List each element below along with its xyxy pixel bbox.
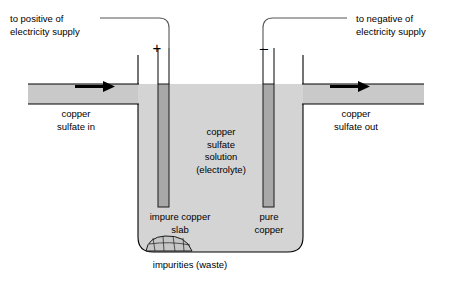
positive-terminal-sign: + (145, 40, 169, 55)
positive-supply-label: to positive of electricity supply (10, 13, 106, 38)
negative-terminal-sign: – (252, 40, 276, 55)
negative-supply-label: to negative of electricity supply (356, 13, 452, 38)
anode-label: impure copper slab (136, 211, 224, 236)
inlet-label: copper sulfate in (38, 108, 114, 133)
cathode-label: pure copper (239, 211, 299, 236)
electrolysis-diagram: to positive of electricity supply to neg… (0, 0, 453, 284)
electrolyte-label: copper sulfate solution (electrolyte) (182, 126, 260, 176)
cathode-bar-icon (263, 84, 274, 207)
sediment-label: impurities (waste) (122, 259, 258, 272)
anode-bar-icon (158, 84, 169, 207)
outlet-label: copper sulfate out (314, 108, 398, 133)
